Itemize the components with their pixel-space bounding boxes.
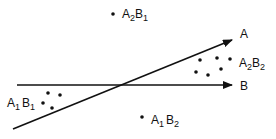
axis-b-label: B [240, 79, 248, 93]
cluster-a1b1-dot [58, 93, 62, 97]
cluster-a2b2-dot [194, 70, 198, 74]
cluster-a1b2-label: A1B2 [151, 113, 179, 129]
cluster-a1b1-dot [41, 101, 45, 105]
cluster-a2b2-dot [219, 67, 223, 71]
cluster-a2b2-label: A2B2 [239, 56, 265, 72]
cluster-a2b2-dot [198, 58, 202, 62]
interaction-diagram: ABA2B1A2B2A1B1A1B2 [0, 0, 276, 139]
cluster-a2b1-label: A2B1 [122, 7, 148, 23]
cluster-a2b1-dot [111, 12, 115, 16]
cluster-a2b2-dot [228, 57, 232, 61]
cluster-a1b2-dot [140, 115, 144, 119]
cluster-a1b1-label: A1B1 [7, 96, 35, 112]
cluster-a1b1-dot [50, 106, 54, 110]
axis-a-label: A [240, 27, 248, 41]
cluster-a1b1-dot [46, 91, 50, 95]
cluster-a2b2-dot [206, 73, 210, 77]
cluster-a2b2-dot [215, 56, 219, 60]
